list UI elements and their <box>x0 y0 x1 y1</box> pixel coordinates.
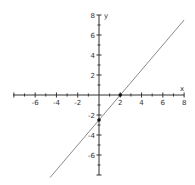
y-tick-label: -4 <box>88 132 96 140</box>
x-tick-labels: -6-4-22468 <box>32 99 187 107</box>
y-tick-labels: 8642-2-4-6 <box>88 12 96 160</box>
y-tick-label: 8 <box>91 12 95 20</box>
x-tick-label: 8 <box>182 99 186 107</box>
x-tick-label: -4 <box>53 99 61 107</box>
x-axis-label: x <box>180 85 184 93</box>
y-tick-label: -2 <box>88 112 95 120</box>
x-tick-label: -6 <box>32 99 40 107</box>
y-tick-label: 4 <box>91 52 96 60</box>
y-tick-label: 6 <box>91 32 96 40</box>
intercept-point <box>97 118 101 122</box>
intercept-point <box>118 93 122 97</box>
x-tick-label: 6 <box>161 99 166 107</box>
x-tick-label: 4 <box>139 99 144 107</box>
y-tick-label: 2 <box>91 72 95 80</box>
y-tick-label: -6 <box>88 152 96 160</box>
x-tick-label: -2 <box>74 99 81 107</box>
x-tick-label: 2 <box>118 99 122 107</box>
coordinate-plane: -6-4-22468 8642-2-4-6 x y <box>0 0 195 185</box>
y-axis-label: y <box>104 12 108 20</box>
